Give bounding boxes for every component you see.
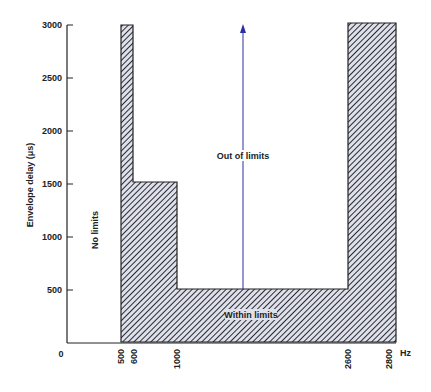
out-of-limits-label: Out of limits xyxy=(217,151,270,161)
x-tick-1000: 1000 xyxy=(172,349,182,369)
x-tick-2800: 2800 xyxy=(384,349,394,369)
within-limits-region xyxy=(121,23,396,342)
x-tick-2600: 2600 xyxy=(343,349,353,369)
y-axis-label: Envelope delay (μs) xyxy=(25,143,35,228)
arrowhead-icon xyxy=(240,24,246,33)
y-tick-2000: 2000 xyxy=(42,126,62,136)
envelope-delay-chart: 3000 2500 2000 1500 1000 500 Envelope de… xyxy=(0,0,431,392)
y-tick-1000: 1000 xyxy=(42,232,62,242)
within-limits-label: Within limits xyxy=(224,310,277,320)
no-limits-label: No limits xyxy=(90,211,100,249)
x-tick-600: 600 xyxy=(129,349,139,364)
x-tick-0: 0 xyxy=(58,349,63,359)
y-tick-3000: 3000 xyxy=(42,20,62,30)
y-ticks xyxy=(67,25,73,290)
x-unit-label: Hz xyxy=(400,348,411,358)
y-tick-500: 500 xyxy=(47,285,62,295)
x-tick-500: 500 xyxy=(116,349,126,364)
y-tick-2500: 2500 xyxy=(42,73,62,83)
y-tick-1500: 1500 xyxy=(42,179,62,189)
